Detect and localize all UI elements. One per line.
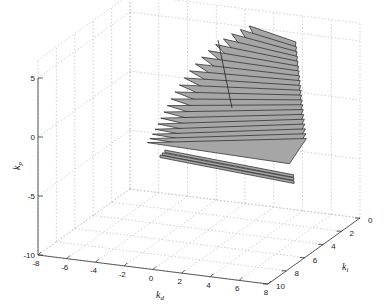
tick-label: 6 [313, 256, 318, 265]
y-axis-label: ki [342, 261, 348, 274]
tick-label: 5 [31, 74, 36, 83]
tick-label: -5 [28, 192, 36, 201]
tick-label: 2 [178, 277, 183, 286]
tick-label: 4 [331, 242, 336, 251]
z-axis-label: kp [11, 162, 24, 170]
tick-label: 8 [264, 288, 269, 297]
tick-label: 0 [31, 133, 36, 142]
tick-label: 0 [149, 274, 154, 283]
tick-label: -2 [119, 270, 127, 279]
tick-label: 0 [368, 216, 373, 225]
tick-label: 2 [350, 229, 355, 238]
tick-label: 4 [206, 281, 211, 290]
tick-label: 10 [276, 282, 285, 291]
tick-label: -6 [61, 263, 69, 272]
tick-label: 8 [294, 269, 299, 278]
tick-label: -8 [32, 259, 40, 268]
surface-slices [147, 26, 306, 184]
3d-plot: 50-5-10-8-6-4-2024680246810 kd ki kp [0, 0, 388, 305]
x-axis-label: kd [156, 289, 164, 302]
tick-label: 6 [235, 284, 240, 293]
tick-label: -4 [90, 266, 98, 275]
